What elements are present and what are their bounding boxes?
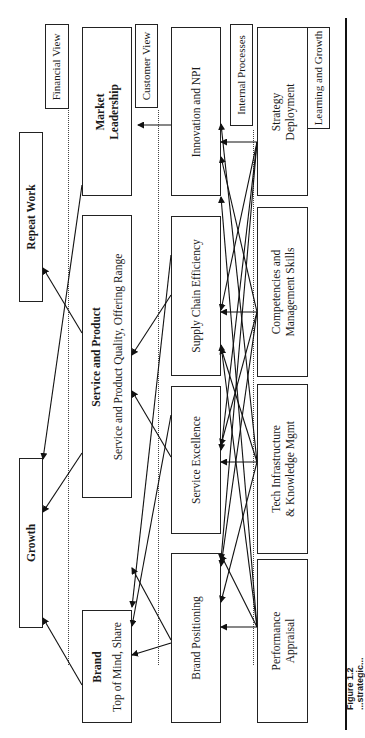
figure-caption: Figure 1.2 ...strategic...: [345, 657, 365, 710]
